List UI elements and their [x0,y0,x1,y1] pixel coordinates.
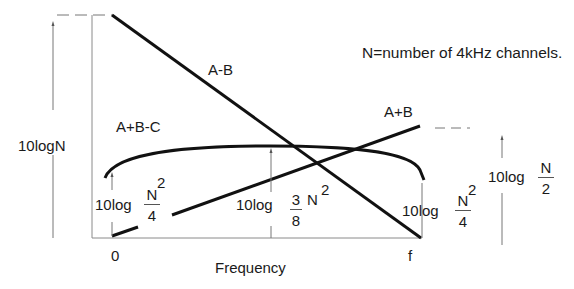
right-end-exponent: 2 [468,182,476,197]
left-end-exponent: 2 [157,175,165,190]
middle-prefix: 10log [236,197,273,212]
right-side-denominator: 2 [538,178,554,196]
right-side-arrow-icon [501,135,504,140]
left-end-fraction: N 4 [144,187,160,223]
right-side-numerator: N [538,160,554,178]
label-a-plus-b-minus-c: A+B-C [116,119,161,134]
right-side-fraction: N 2 [538,160,554,196]
curve-a-plus-b-minus-c [105,146,424,180]
right-end-fraction: N 4 [455,193,471,229]
middle-fraction: 3 8 [290,192,302,228]
note-text: N=number of 4kHz channels. [362,45,562,61]
left-end-arrow-icon [111,172,114,177]
x-axis-start-tick: 0 [111,248,119,263]
right-end-prefix: 10log [402,203,439,218]
label-a-minus-b: A-B [208,62,233,77]
middle-after-fraction: N [307,192,318,207]
y-axis-level-label: 10logN [18,138,66,153]
right-side-prefix: 10log [488,169,525,184]
left-level-arrow-icon [52,21,55,26]
left-end-denominator: 4 [144,205,160,223]
x-axis-label: Frequency [215,260,286,275]
left-end-prefix: 10log [95,197,132,212]
middle-numerator: 3 [290,192,302,210]
middle-exponent: 2 [321,182,329,197]
curve-a-plus-b-seg1 [112,227,138,236]
x-axis-end-tick: f [408,248,412,263]
label-a-plus-b: A+B [384,104,413,119]
right-end-denominator: 4 [455,211,471,229]
middle-denominator: 8 [290,210,302,228]
middle-arrow-icon [270,148,273,153]
